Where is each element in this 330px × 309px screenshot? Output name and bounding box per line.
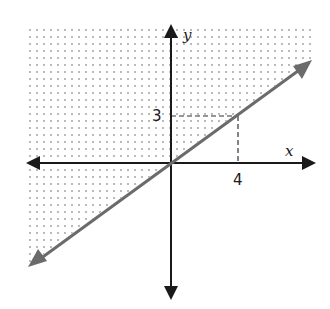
x-axis-right-arrow-icon	[302, 156, 316, 170]
shaded-region	[26, 27, 313, 266]
x-axis-label: x	[285, 142, 294, 160]
y-axis-down-arrow-icon	[164, 286, 178, 300]
y-axis-label: y	[182, 26, 192, 44]
x-tick-label-4: 4	[233, 171, 243, 189]
y-tick-label-3: 3	[152, 107, 162, 125]
inequality-graph: y x 3 4	[0, 0, 330, 309]
